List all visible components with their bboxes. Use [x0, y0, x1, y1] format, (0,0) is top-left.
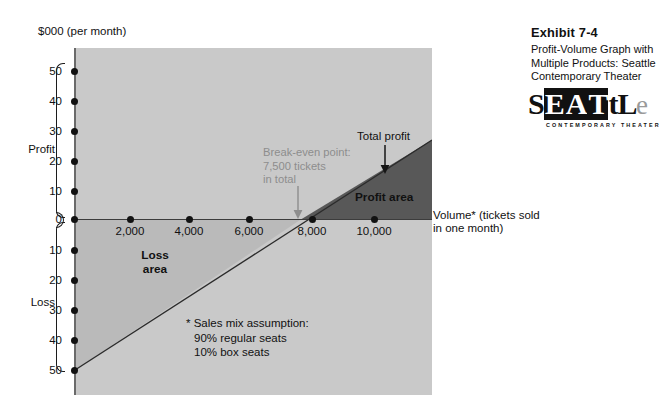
x-axis-title-line1: Volume* (tickets sold — [433, 209, 540, 221]
y-tick-dot — [71, 367, 78, 374]
loss-area-line2: area — [143, 262, 167, 276]
loss-area-line1: Loss — [141, 248, 169, 262]
x-axis-title: Volume* (tickets sold in one month) — [433, 209, 553, 235]
breakeven-line1: Break-even point: — [263, 146, 351, 158]
breakeven-arrow-icon — [292, 186, 304, 220]
loss-area-label: Loss area — [132, 248, 178, 276]
y-tick-dot — [71, 216, 78, 223]
x-tick-dot — [309, 216, 316, 223]
cropped-header-sliver — [36, 0, 256, 5]
x-axis-title-line2: in one month) — [433, 222, 503, 234]
logo-swirl-e-icon: e — [636, 90, 648, 121]
logo-letter-a: A — [565, 88, 588, 120]
loss-bracket — [56, 222, 65, 372]
profit-bracket-label: Profit — [5, 143, 55, 155]
total-profit-arrow-icon — [379, 145, 391, 175]
x-tick-dot — [371, 216, 378, 223]
x-tick-dot — [246, 216, 253, 223]
profit-area-label: Profit area — [355, 190, 413, 204]
sales-mix-line2: 90% regular seats — [186, 331, 309, 346]
profit-bracket — [56, 63, 65, 218]
logo-letter-e: E — [544, 88, 565, 120]
x-tick-dot — [186, 216, 193, 223]
y-tick-dot — [71, 188, 78, 195]
x-tick-label: 6,000 — [222, 225, 276, 237]
x-tick-label: 2,000 — [103, 225, 157, 237]
y-tick-dot — [71, 98, 78, 105]
sales-mix-line3: 10% box seats — [186, 345, 309, 360]
x-tick-label: 8,000 — [285, 225, 339, 237]
breakeven-line2: 7,500 tickets — [263, 160, 326, 172]
seattle-contemporary-theater-logo: SEATtL e CONTEMPORARY THEATER — [528, 88, 660, 134]
y-axis-title: $000 (per month) — [38, 25, 126, 37]
exhibit-caption-block: Exhibit 7-4 Profit-Volume Graph with Mul… — [531, 25, 659, 84]
cropped-header-text — [36, 0, 256, 4]
x-tick-dot — [127, 216, 134, 223]
total-profit-label: Total profit — [357, 130, 410, 142]
logo-wordmark: SEATtL — [528, 88, 636, 120]
y-tick-dot — [71, 158, 78, 165]
x-tick-label: 10,000 — [347, 225, 401, 237]
y-tick-dot — [71, 277, 78, 284]
logo-letter-t: T — [587, 88, 608, 120]
y-tick-dot — [71, 128, 78, 135]
logo-letter-s: S — [528, 87, 544, 120]
breakeven-line3: in total — [263, 173, 296, 185]
sales-mix-line1: * Sales mix assumption: — [186, 317, 309, 329]
y-tick-dot — [71, 337, 78, 344]
logo-tagline: CONTEMPORARY THEATER — [546, 122, 661, 128]
y-tick-dot — [71, 247, 78, 254]
exhibit-subtitle: Profit-Volume Graph with Multiple Produc… — [531, 43, 659, 84]
y-tick-dot — [71, 68, 78, 75]
sales-mix-note: * Sales mix assumption: 90% regular seat… — [186, 316, 309, 360]
exhibit-figure: 50 40 30 20 10 0 10 20 30 40 50 2,000 4,… — [0, 0, 664, 395]
breakeven-annotation: Break-even point: 7,500 tickets in total — [263, 146, 373, 187]
logo-letter-l: L — [617, 87, 636, 120]
y-tick-dot — [71, 307, 78, 314]
x-tick-label: 4,000 — [162, 225, 216, 237]
exhibit-title: Exhibit 7-4 — [531, 25, 659, 40]
loss-bracket-label: Loss — [5, 296, 55, 308]
